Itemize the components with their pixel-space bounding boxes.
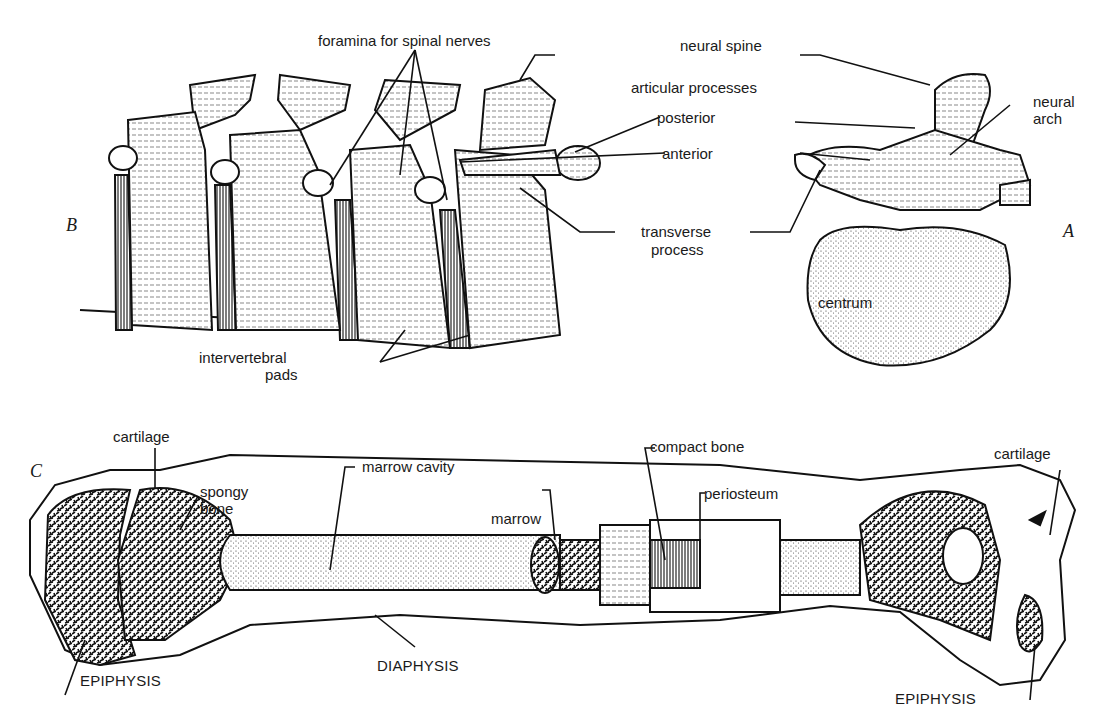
label-marrow: marrow — [491, 510, 541, 527]
label-posterior: posterior — [657, 109, 715, 126]
label-neural-arch-line2: arch — [1033, 110, 1062, 127]
label-diaphysis: DIAPHYSIS — [377, 657, 459, 674]
illustration — [0, 0, 1120, 721]
label-articular-processes: articular processes — [631, 79, 757, 96]
label-cartilage-right: cartilage — [994, 445, 1051, 462]
label-transverse-line2: process — [651, 241, 704, 258]
label-periosteum: periosteum — [704, 485, 778, 502]
label-foramina: foramina for spinal nerves — [318, 32, 491, 49]
label-marrow-cavity: marrow cavity — [362, 458, 455, 475]
panel-letter-a: A — [1063, 221, 1074, 242]
panel-letter-b: B — [66, 215, 77, 236]
panel-letter-c: C — [30, 461, 42, 482]
label-spongy-line1: spongy — [200, 483, 248, 500]
label-anterior: anterior — [662, 145, 713, 162]
label-centrum: centrum — [818, 294, 872, 311]
label-epiphysis-right: EPIPHYSIS — [895, 690, 976, 707]
long-bone-drawing — [30, 455, 1075, 685]
label-transverse-line1: transverse — [641, 223, 711, 240]
label-epiphysis-left: EPIPHYSIS — [80, 672, 161, 689]
label-neural-spine: neural spine — [680, 37, 762, 54]
label-intervertebral-line2: pads — [265, 366, 298, 383]
label-intervertebral-line1: intervertebral — [199, 349, 287, 366]
label-compact-bone: compact bone — [650, 438, 744, 455]
vertebral-column-drawing — [80, 75, 600, 348]
label-neural-arch-line1: neural — [1033, 93, 1075, 110]
label-cartilage-left: cartilage — [113, 428, 170, 445]
label-spongy-line2: bone — [200, 500, 233, 517]
